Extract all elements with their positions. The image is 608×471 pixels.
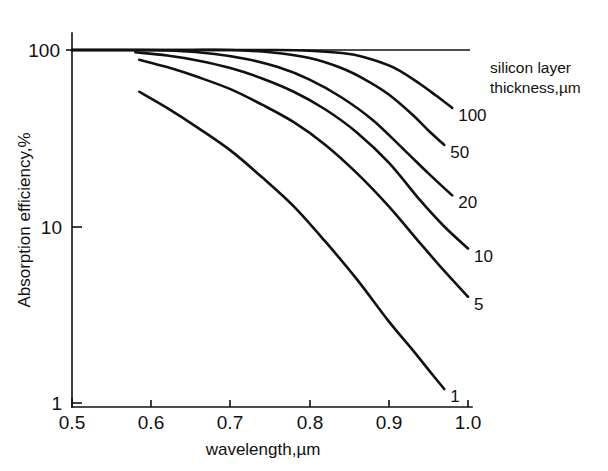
curve-group bbox=[72, 50, 468, 389]
legend-title-line2: thickness,µm bbox=[490, 79, 581, 96]
y-axis-title: Absorption efficiency,% bbox=[15, 132, 34, 307]
absorption-efficiency-chart: 100 10 1 0.5 0.6 0.7 0.8 0.9 1.0 wavelen… bbox=[0, 0, 608, 471]
curve-20 bbox=[72, 50, 452, 195]
y-tick-label-1: 1 bbox=[51, 393, 62, 414]
curve-label-10: 10 bbox=[474, 247, 493, 266]
x-axis-ticks bbox=[72, 398, 468, 407]
curve-label-50: 50 bbox=[450, 143, 469, 162]
curve-1 bbox=[139, 92, 444, 389]
legend-title-line1: silicon layer bbox=[490, 59, 571, 76]
y-tick-label-10: 10 bbox=[41, 217, 62, 238]
curve-label-100: 100 bbox=[458, 106, 486, 125]
curve-label-20: 20 bbox=[458, 193, 477, 212]
x-tick-label-0-6: 0.6 bbox=[138, 412, 164, 433]
x-axis-title: wavelength,µm bbox=[205, 440, 321, 459]
x-tick-label-0-7: 0.7 bbox=[217, 412, 243, 433]
x-tick-label-1-0: 1.0 bbox=[455, 412, 481, 433]
curve-label-group: 10050201051 bbox=[450, 106, 493, 406]
curve-label-1: 1 bbox=[450, 387, 459, 406]
x-tick-label-0-9: 0.9 bbox=[376, 412, 402, 433]
x-tick-label-0-8: 0.8 bbox=[297, 412, 323, 433]
y-tick-label-100: 100 bbox=[28, 40, 60, 61]
y-axis-ticks bbox=[66, 50, 82, 403]
curve-label-5: 5 bbox=[474, 295, 483, 314]
chart-svg: 100 10 1 0.5 0.6 0.7 0.8 0.9 1.0 wavelen… bbox=[0, 0, 608, 471]
x-tick-label-0-5: 0.5 bbox=[59, 412, 85, 433]
